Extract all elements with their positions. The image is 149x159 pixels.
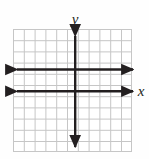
graph-canvas: y x	[0, 0, 149, 159]
x-axis-label: x	[137, 83, 145, 99]
y-axis-label: y	[70, 11, 79, 27]
coordinate-plane-figure: y x	[0, 0, 149, 159]
